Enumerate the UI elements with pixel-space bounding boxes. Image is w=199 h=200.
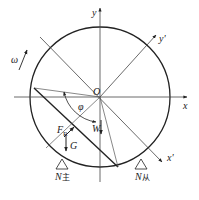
weight-label: W <box>92 124 100 134</box>
origin-label: O <box>93 87 100 97</box>
angular-velocity-arrow <box>19 50 27 70</box>
resultant-force-subscript: R <box>63 130 68 138</box>
x-prime-axis-label: x' <box>167 153 174 163</box>
material-chord <box>34 88 118 167</box>
omega-label: ω <box>11 55 18 65</box>
gravity-label: G <box>70 141 77 151</box>
y-axis-label: y <box>92 8 96 18</box>
y-prime-axis <box>100 35 156 97</box>
drive-support-subscript: 主 <box>62 173 70 182</box>
driven-support-subscript: 从 <box>142 173 150 182</box>
drive-support-label: N主 <box>55 172 70 183</box>
drive-support-symbol: N <box>55 171 62 182</box>
resultant-force-label: FR <box>57 125 68 139</box>
y-prime-axis-label: y' <box>159 34 166 44</box>
driven-support-triangle <box>135 159 147 169</box>
driven-support-symbol: N <box>135 171 142 182</box>
x-axis-label: x <box>183 101 187 111</box>
driven-support-label: N从 <box>135 172 150 183</box>
phi-label: φ <box>78 102 84 112</box>
drum-force-diagram <box>0 0 199 200</box>
radius-line-left <box>34 88 100 97</box>
drive-support-triangle <box>56 159 68 169</box>
